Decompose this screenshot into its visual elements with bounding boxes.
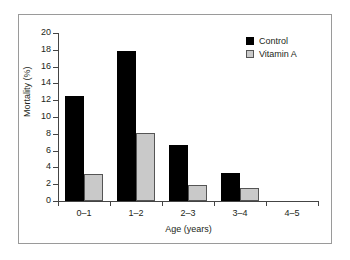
y-tick-mark [53,117,58,118]
y-tick-label: 6 [46,145,51,155]
x-tick-label: 0–1 [58,208,110,218]
y-tick-mark [53,184,58,185]
x-tick-label: 3–4 [214,208,266,218]
bar-control-1 [117,51,136,201]
bar-vitamin-a-0 [84,174,103,201]
x-axis-tick [58,201,59,206]
y-tick-label: 2 [46,178,51,188]
y-tick-label: 20 [41,27,51,37]
y-tick-mark [53,83,58,84]
bar-vitamin-a-2 [188,185,207,201]
y-axis-title: Mortality (%) [22,66,32,117]
chart-legend: Control Vitamin A [246,36,297,62]
y-tick-label: 16 [41,61,51,71]
x-axis-tick [266,201,267,206]
x-tick-label: 2–3 [162,208,214,218]
y-tick-label: 18 [41,44,51,54]
y-tick-mark [53,167,58,168]
x-tick-label: 1–2 [110,208,162,218]
y-axis-tick: 16 [58,67,59,68]
black-square-icon [246,37,254,45]
y-tick-mark [53,100,58,101]
y-tick-label: 14 [41,77,51,87]
x-axis-tick [162,201,163,206]
y-tick-label: 0 [46,195,51,205]
bar-control-3 [221,173,240,201]
y-axis-tick: 6 [58,151,59,152]
x-axis-line [58,201,319,202]
y-axis-tick: 4 [58,167,59,168]
y-tick-label: 8 [46,128,51,138]
y-tick-mark [53,151,58,152]
x-axis-tick [110,201,111,206]
y-axis-tick: 2 [58,184,59,185]
bar-control-2 [169,145,188,201]
y-axis-tick: 12 [58,100,59,101]
y-axis-tick: 14 [58,83,59,84]
legend-item-control: Control [246,36,297,46]
y-tick-mark [53,67,58,68]
y-axis-tick: 20 [58,33,59,34]
x-axis-title: Age (years) [58,224,319,234]
y-axis-tick: 10 [58,117,59,118]
gray-square-icon [246,50,254,58]
y-tick-mark [53,50,58,51]
y-tick-label: 10 [41,111,51,121]
y-axis-tick: 8 [58,134,59,135]
bar-vitamin-a-3 [240,188,259,201]
y-tick-label: 12 [41,94,51,104]
bar-vitamin-a-1 [136,133,155,201]
y-axis-tick: 18 [58,50,59,51]
y-tick-mark [53,134,58,135]
bar-control-0 [65,96,84,201]
x-tick-label: 4–5 [266,208,318,218]
y-tick-label: 4 [46,161,51,171]
x-axis-tick [318,201,319,206]
legend-label-vitamin-a: Vitamin A [259,49,297,59]
legend-item-vitamin-a: Vitamin A [246,49,297,59]
chart-figure: Mortality (%) Age (years) 02468101214161… [0,0,350,260]
legend-label-control: Control [259,36,288,46]
x-axis-tick [214,201,215,206]
y-tick-mark [53,33,58,34]
